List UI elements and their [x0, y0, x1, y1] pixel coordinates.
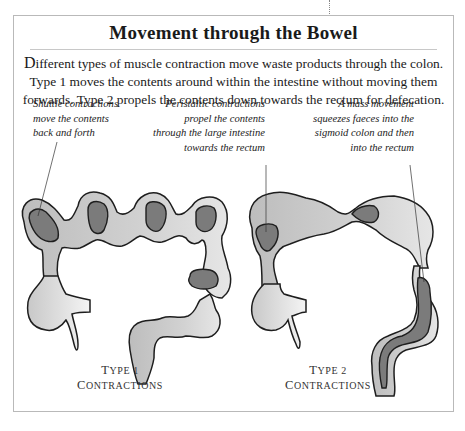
peristaltic-line-1: Peristaltic contractions: [145, 97, 265, 112]
type1-ascending-colon: [28, 276, 90, 350]
type1-caption: TYPE 1 CONTRACTIONS: [60, 363, 180, 393]
peristaltic-line-2: propel the contents: [145, 112, 265, 127]
type1-contents-2: [88, 202, 108, 234]
type1-caption-part-1: YPE 1: [109, 365, 138, 376]
peristaltic-line-3: through the large intestine: [145, 126, 265, 141]
mass-line-2: squeezes faeces into the: [303, 112, 414, 127]
mass-movement-annotation: A mass movement squeezes faeces into the…: [303, 97, 414, 155]
type2-ascending-colon: [252, 284, 306, 348]
mass-line-3: sigmoid colon and then: [303, 126, 414, 141]
type1-caption-part-2: ONTRACTIONS: [86, 380, 163, 391]
shuttle-line-2: move the contents: [33, 112, 118, 127]
mass-line-4: into the rectum: [303, 141, 414, 156]
type2-caption-cap-c: C: [285, 378, 294, 392]
type1-contents-4: [196, 206, 216, 232]
peristaltic-line-4: towards the rectum: [145, 141, 265, 156]
type1-colon-diagram: [22, 142, 230, 384]
type2-caption: TYPE 2 CONTRACTIONS: [268, 363, 388, 393]
type2-colon-diagram: [250, 165, 438, 396]
type1-contents-5: [189, 269, 218, 289]
shuttle-line-1: Shuttle contractions: [33, 97, 118, 112]
type1-contents-3: [146, 202, 166, 232]
shuttle-line-3: back and forth: [33, 126, 118, 141]
type2-caption-part-2: ONTRACTIONS: [294, 380, 371, 391]
peristaltic-annotation: Peristaltic contractions propel the cont…: [145, 97, 265, 155]
type1-caption-cap-c: C: [77, 378, 86, 392]
mass-line-1: A mass movement: [303, 97, 414, 112]
shuttle-annotation: Shuttle contractions move the contents b…: [33, 97, 118, 141]
type2-caption-part-1: YPE 2: [317, 365, 346, 376]
